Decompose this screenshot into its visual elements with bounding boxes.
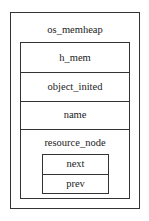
field-label: resource_node xyxy=(21,137,129,149)
field-resource-node: resource_node next prev xyxy=(21,129,129,200)
field-label: h_mem xyxy=(21,52,129,64)
field-h-mem: h_mem xyxy=(21,43,129,72)
field-prev: prev xyxy=(43,174,108,194)
struct-os-memheap: os_memheap h_mem object_inited name reso… xyxy=(10,12,140,209)
field-label: next xyxy=(43,158,108,170)
field-label: object_inited xyxy=(21,81,129,93)
field-label: name xyxy=(21,109,129,121)
field-object-inited: object_inited xyxy=(21,72,129,101)
field-next: next xyxy=(43,155,108,174)
struct-title: os_memheap xyxy=(11,24,139,36)
fields-container: h_mem object_inited name resource_node n… xyxy=(20,42,130,199)
field-name: name xyxy=(21,101,129,129)
field-label: prev xyxy=(43,178,108,190)
resource-node-struct: next prev xyxy=(42,154,109,194)
